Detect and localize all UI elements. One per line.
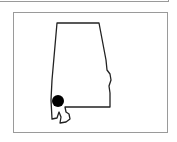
alabama-outline — [51, 23, 111, 123]
state-map — [0, 0, 177, 142]
location-marker-icon[interactable] — [52, 95, 64, 107]
